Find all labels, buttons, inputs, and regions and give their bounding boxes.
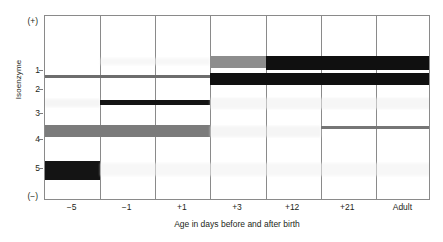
x-tick-label-0: −5 xyxy=(44,203,99,212)
x-tick-label-4: +12 xyxy=(265,203,320,212)
band-iso1-halo-early xyxy=(100,58,210,65)
x-tick-label-5: +21 xyxy=(320,203,375,212)
y-tick-mark-3 xyxy=(39,113,43,114)
band-iso3-faint-early xyxy=(45,99,100,107)
band-iso1-medium-plus3 xyxy=(210,56,265,68)
band-iso4-halo-late xyxy=(210,126,320,137)
x-tick-label-6: Adult xyxy=(375,203,430,212)
y-tick-mark-2 xyxy=(39,89,43,90)
x-tick-label-1: −1 xyxy=(99,203,154,212)
y-tick-label-3: 3 xyxy=(22,109,40,118)
band-iso2-strong-late xyxy=(210,73,430,85)
x-tick-label-3: +3 xyxy=(209,203,264,212)
y-tick-label-2: 2 xyxy=(22,85,40,94)
y-tick-label-5: 5 xyxy=(22,164,40,173)
band-iso2-faint-early xyxy=(45,75,210,78)
y-tick-label-1: 1 xyxy=(22,66,40,75)
y-tick-label-4: 4 xyxy=(22,135,40,144)
y-axis-ticks: 12345 xyxy=(18,0,40,242)
y-tick-mark-5 xyxy=(39,168,43,169)
band-iso1-strong-late xyxy=(266,56,430,70)
y-tick-mark-1 xyxy=(39,70,43,71)
band-iso5-strong-minus5 xyxy=(45,161,100,180)
gel-plot-area xyxy=(44,15,430,200)
x-axis-title: Age in days before and after birth xyxy=(44,220,430,229)
x-tick-label-2: +1 xyxy=(154,203,209,212)
isoenzyme-gel-figure: Isoenzyme (+) (−) 12345 −5−1+1+3+12+21Ad… xyxy=(0,0,443,242)
band-iso5-halo xyxy=(100,163,430,176)
band-iso4-medium-early xyxy=(45,125,210,137)
band-iso4-thin-adult xyxy=(321,126,430,129)
band-iso3-halo-late xyxy=(210,98,430,109)
y-tick-mark-4 xyxy=(39,139,43,140)
band-iso3-strong-mid xyxy=(100,100,210,105)
